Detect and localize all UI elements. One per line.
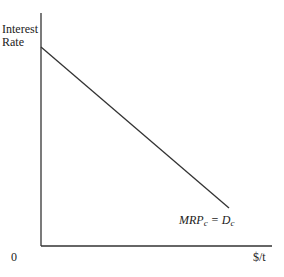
curve-label-sub2: c	[230, 218, 234, 228]
y-axis-label: Interest Rate	[2, 23, 38, 49]
curve-label: MRPc = Dc	[179, 214, 234, 230]
origin-label: 0	[11, 251, 17, 264]
y-axis-label-line2: Rate	[2, 36, 38, 49]
diagram-canvas	[0, 0, 284, 277]
curve-label-main: MRP	[179, 213, 204, 227]
x-axis-label: $/t	[253, 251, 266, 264]
demand-curve	[41, 47, 229, 208]
curve-label-eq: = D	[208, 213, 231, 227]
